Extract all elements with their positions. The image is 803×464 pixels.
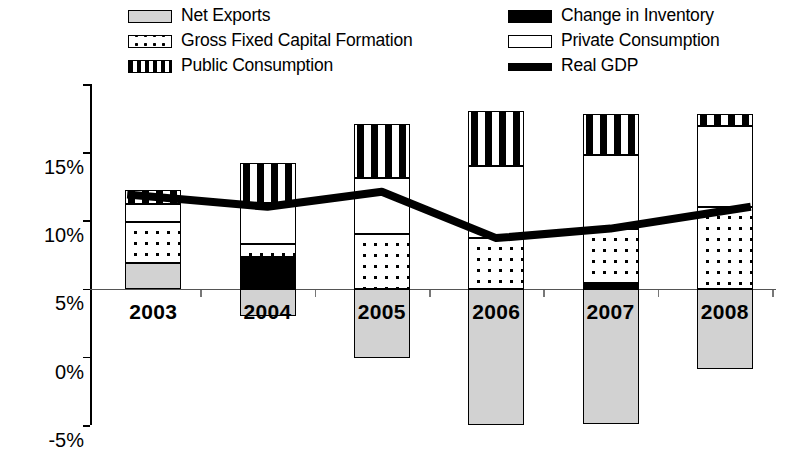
bar-segment-inventory-2007[interactable] <box>583 283 639 288</box>
y-axis-labels: 15%10%5%0%-5%-10% <box>0 84 84 425</box>
legend-item-real-gdp: Real GDP <box>508 54 720 78</box>
legend-label-net-exports: Net Exports <box>181 7 270 25</box>
y-axis-tick <box>83 425 90 427</box>
bar-group-2006[interactable] <box>468 84 524 425</box>
real-gdp-line-path <box>127 192 751 238</box>
public-consumption-swatch <box>128 60 172 73</box>
legend-item-gross-fixed-capital-formation: Gross Fixed Capital Formation <box>128 29 413 53</box>
gdp-contribution-chart: Net Exports Gross Fixed Capital Formatio… <box>0 0 803 464</box>
bar-group-2003[interactable] <box>125 84 181 425</box>
bar-segment-gfcf-2005[interactable] <box>354 234 410 289</box>
legend-label-private-consumption: Private Consumption <box>561 32 720 50</box>
y-axis-label-15: 15% <box>44 157 84 177</box>
bar-segment-public-2004[interactable] <box>240 163 296 203</box>
bar-segment-public-2007[interactable] <box>583 114 639 155</box>
real-gdp-line-swatch <box>508 63 552 71</box>
bar-group-2007[interactable] <box>583 84 639 425</box>
bar-group-2004[interactable] <box>240 84 296 425</box>
y-axis-label-5: 5% <box>55 293 84 313</box>
legend-item-private-consumption: Private Consumption <box>508 29 720 53</box>
legend-label-real-gdp: Real GDP <box>561 57 638 75</box>
bar-group-2005[interactable] <box>354 84 410 425</box>
bar-segment-gfcf-2004[interactable] <box>240 244 296 258</box>
x-axis-label-2006: 2006 <box>451 301 541 322</box>
legend-item-net-exports: Net Exports <box>128 4 413 28</box>
gfcf-swatch <box>128 35 172 48</box>
bar-segment-gfcf-2006[interactable] <box>468 238 524 288</box>
bar-segment-private-2006[interactable] <box>468 166 524 238</box>
y-axis-label-neg5: -5% <box>48 430 84 450</box>
x-axis-label-2005: 2005 <box>337 301 427 322</box>
legend-label-change-in-inventory: Change in Inventory <box>561 7 714 25</box>
chart-legend: Net Exports Gross Fixed Capital Formatio… <box>128 4 788 78</box>
zero-baseline <box>90 289 776 291</box>
private-consumption-swatch <box>508 35 552 48</box>
bar-segment-public-2008[interactable] <box>697 114 753 126</box>
bar-segment-public-2006[interactable] <box>468 111 524 166</box>
y-axis-tick <box>83 84 90 86</box>
bar-segment-gfcf-2003[interactable] <box>125 222 181 263</box>
real-gdp-line <box>90 84 776 425</box>
legend-column-left: Net Exports Gross Fixed Capital Formatio… <box>128 4 413 79</box>
bar-segment-private-2005[interactable] <box>354 178 410 234</box>
bar-segment-inventory-2004[interactable] <box>240 257 296 288</box>
bar-segment-private-2004[interactable] <box>240 203 296 244</box>
bar-segment-public-2003[interactable] <box>125 190 181 204</box>
legend-item-public-consumption: Public Consumption <box>128 54 413 78</box>
bar-segment-gfcf-2008[interactable] <box>697 207 753 289</box>
y-axis-tick <box>83 289 90 291</box>
legend-label-gross-fixed-capital-formation: Gross Fixed Capital Formation <box>181 32 413 50</box>
legend-label-public-consumption: Public Consumption <box>181 57 333 75</box>
bar-segment-net-exports-2003[interactable] <box>125 263 181 289</box>
plot-area <box>90 84 776 425</box>
net-exports-swatch <box>128 10 172 23</box>
y-axis-line <box>90 84 92 425</box>
y-axis-tick <box>83 152 90 154</box>
y-axis-label-10: 10% <box>44 225 84 245</box>
x-axis-label-2003: 2003 <box>108 301 198 322</box>
bar-segment-private-2003[interactable] <box>125 204 181 222</box>
legend-column-right: Change in Inventory Private Consumption … <box>508 4 720 79</box>
bar-segment-private-2008[interactable] <box>697 126 753 206</box>
bar-segment-gfcf-2007[interactable] <box>583 229 639 284</box>
inventory-swatch <box>508 10 552 23</box>
legend-item-change-in-inventory: Change in Inventory <box>508 4 720 28</box>
y-axis-tick <box>83 357 90 359</box>
x-axis-label-2008: 2008 <box>680 301 770 322</box>
y-axis-tick <box>83 220 90 222</box>
bar-segment-public-2005[interactable] <box>354 124 410 179</box>
y-axis-label-0: 0% <box>55 362 84 382</box>
x-axis-label-2004: 2004 <box>223 301 313 322</box>
x-axis-label-2007: 2007 <box>566 301 656 322</box>
bar-segment-private-2007[interactable] <box>583 155 639 229</box>
bar-group-2008[interactable] <box>697 84 753 425</box>
